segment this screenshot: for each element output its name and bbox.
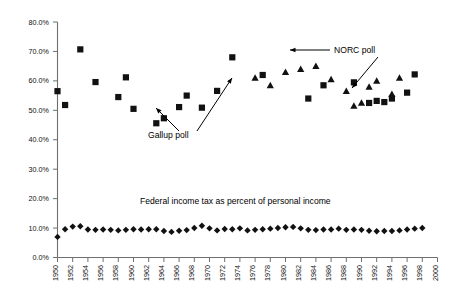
- data-point-triangle: [388, 91, 395, 98]
- x-tick-label: 1956: [96, 265, 105, 281]
- x-axis-ticks: 1950195219541956195819601962196419661968…: [51, 258, 440, 282]
- data-point-triangle: [282, 68, 289, 75]
- data-point-diamond: [404, 226, 410, 232]
- y-tick-label: 70.0%: [29, 47, 50, 56]
- data-point-square: [153, 120, 159, 126]
- scatter-plot-svg: 0.0%10.0%20.0%30.0%40.0%50.0%60.0%70.0%8…: [0, 0, 450, 292]
- x-tick-label: 1962: [142, 265, 151, 281]
- data-point-triangle: [358, 99, 365, 106]
- data-point-diamond: [146, 226, 152, 232]
- x-tick-label: 1984: [309, 265, 318, 281]
- x-tick-label: 1974: [233, 265, 242, 281]
- data-point-square: [320, 82, 326, 88]
- data-point-square: [130, 106, 136, 112]
- data-point-square: [412, 71, 418, 77]
- y-tick-label: 20.0%: [29, 194, 50, 203]
- data-point-diamond: [275, 225, 281, 231]
- x-tick-label: 1986: [324, 265, 333, 281]
- data-point-diamond: [366, 228, 372, 234]
- data-point-diamond: [191, 225, 197, 231]
- y-tick-label: 10.0%: [29, 224, 50, 233]
- data-point-triangle: [366, 83, 373, 90]
- data-point-square: [115, 94, 121, 100]
- series-norc-poll: [252, 63, 404, 109]
- data-point-diamond: [77, 223, 83, 229]
- x-tick-label: 1998: [415, 265, 424, 281]
- x-tick-label: 1950: [51, 265, 60, 281]
- x-tick-label: 1966: [172, 265, 181, 281]
- data-point-square: [62, 102, 68, 108]
- x-tick-label: 1972: [218, 265, 227, 281]
- annotation-arrow: [197, 78, 232, 131]
- data-point-diamond: [381, 228, 387, 234]
- data-point-diamond: [199, 223, 205, 229]
- data-point-diamond: [313, 227, 319, 233]
- data-point-triangle: [297, 66, 304, 73]
- data-point-square: [176, 104, 182, 110]
- data-point-diamond: [229, 226, 235, 232]
- data-point-square: [305, 95, 311, 101]
- data-point-diamond: [252, 227, 258, 233]
- data-point-diamond: [305, 227, 311, 233]
- data-point-diamond: [328, 226, 334, 232]
- series-federal-income-tax-as-percent-of-personal-income: [54, 223, 425, 241]
- x-tick-label: 1976: [248, 265, 257, 281]
- data-point-diamond: [153, 226, 159, 232]
- data-point-diamond: [161, 228, 167, 234]
- y-tick-label: 40.0%: [29, 135, 50, 144]
- data-point-square: [92, 79, 98, 85]
- data-point-triangle: [252, 74, 259, 81]
- data-point-diamond: [260, 226, 266, 232]
- data-point-triangle: [350, 102, 357, 109]
- data-point-square: [54, 88, 60, 94]
- data-point-diamond: [184, 227, 190, 233]
- chart-figure: 0.0%10.0%20.0%30.0%40.0%50.0%60.0%70.0%8…: [0, 0, 450, 292]
- annotation-label-gallup: Gallup poll: [148, 130, 189, 140]
- data-point-diamond: [176, 228, 182, 234]
- data-point-diamond: [419, 225, 425, 231]
- y-axis-ticks: 0.0%10.0%20.0%30.0%40.0%50.0%60.0%70.0%8…: [29, 18, 58, 263]
- data-point-triangle: [343, 88, 350, 95]
- y-tick-label: 80.0%: [29, 18, 50, 27]
- x-tick-label: 1994: [385, 265, 394, 281]
- data-point-diamond: [237, 225, 243, 231]
- data-point-diamond: [267, 225, 273, 231]
- annotation-arrowhead: [227, 78, 232, 84]
- data-point-diamond: [351, 226, 357, 232]
- annotation-tax-series: Federal income tax as percent of persona…: [140, 196, 331, 206]
- y-axis: 0.0%10.0%20.0%30.0%40.0%50.0%60.0%70.0%8…: [29, 18, 58, 263]
- data-point-diamond: [206, 225, 212, 231]
- annotation-gallup: Gallup poll: [148, 78, 232, 140]
- data-point-diamond: [290, 224, 296, 230]
- data-point-triangle: [396, 74, 403, 81]
- data-point-square: [260, 72, 266, 78]
- x-tick-label: 2000: [431, 265, 440, 281]
- y-tick-label: 0.0%: [33, 253, 50, 262]
- data-point-diamond: [100, 226, 106, 232]
- data-point-diamond: [298, 225, 304, 231]
- x-tick-label: 1960: [127, 265, 136, 281]
- data-point-square: [77, 46, 83, 52]
- x-tick-label: 1954: [81, 265, 90, 281]
- annotation-label-norc: NORC poll: [334, 45, 375, 55]
- data-point-diamond: [282, 224, 288, 230]
- data-point-square: [214, 88, 220, 94]
- data-point-diamond: [336, 225, 342, 231]
- data-point-diamond: [343, 227, 349, 233]
- x-tick-label: 1978: [263, 265, 272, 281]
- annotation-label-tax-series: Federal income tax as percent of persona…: [140, 196, 331, 206]
- x-tick-label: 1964: [157, 265, 166, 281]
- data-point-diamond: [108, 227, 114, 233]
- data-point-square: [184, 92, 190, 98]
- annotation-arrowhead: [290, 48, 296, 53]
- data-point-diamond: [222, 226, 228, 232]
- data-point-diamond: [396, 227, 402, 233]
- data-point-square: [366, 100, 372, 106]
- data-point-square: [404, 90, 410, 96]
- x-tick-label: 1996: [400, 265, 409, 281]
- x-tick-label: 1980: [279, 265, 288, 281]
- x-tick-label: 1988: [339, 265, 348, 281]
- data-point-diamond: [70, 223, 76, 229]
- data-point-triangle: [267, 82, 274, 89]
- x-tick-label: 1968: [187, 265, 196, 281]
